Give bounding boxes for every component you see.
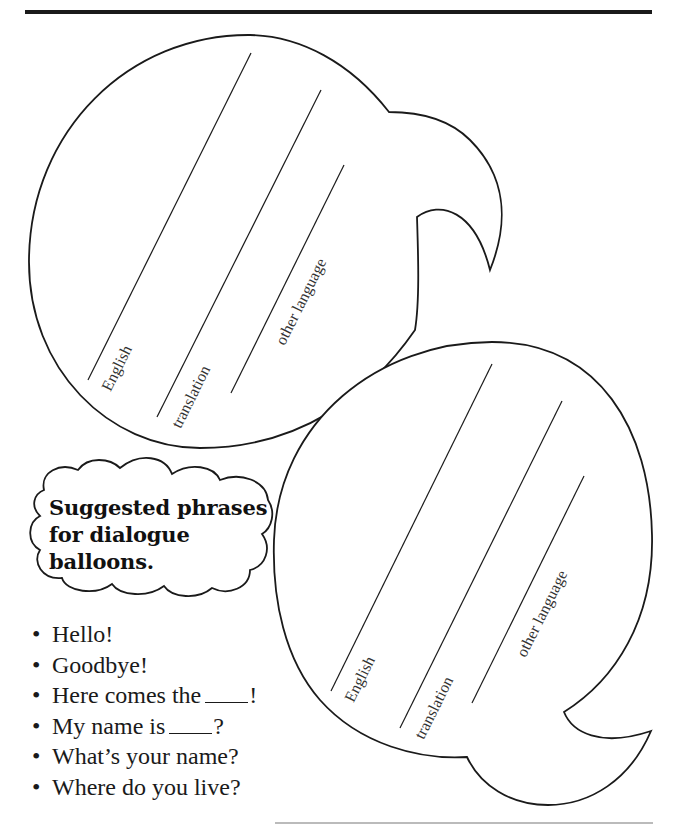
phrase-item: •What’s your name?	[30, 741, 257, 772]
phrase-text: Where do you live?	[52, 774, 241, 800]
fill-in-blank	[205, 684, 248, 703]
phrase-list: •Hello! •Goodbye! •Here comes the! •My n…	[30, 619, 257, 802]
footer-rule	[275, 822, 653, 824]
bullet-icon: •	[32, 772, 40, 803]
cloud-heading: Suggested phrases for dialogue balloons.	[49, 494, 274, 575]
bullet-icon: •	[32, 741, 40, 772]
bullet-icon: •	[32, 711, 40, 742]
phrase-item: •Hello!	[30, 619, 257, 650]
bullet-icon: •	[32, 619, 40, 650]
phrase-punctuation: !	[249, 682, 257, 708]
phrase-punctuation: ?	[213, 713, 224, 739]
phrase-item: •Here comes the!	[30, 680, 257, 711]
bullet-icon: •	[32, 650, 40, 681]
cloud-heading-line: Suggested phrases	[49, 494, 274, 521]
phrase-item: •Where do you live?	[30, 772, 257, 803]
cloud-heading-line: balloons.	[49, 548, 274, 575]
cloud-heading-line: for dialogue	[49, 521, 274, 548]
phrase-text: Hello!	[52, 621, 113, 647]
speech-balloon-bottom	[274, 342, 652, 805]
phrase-text: Goodbye!	[52, 652, 148, 678]
phrase-item: •My name is?	[30, 711, 257, 742]
phrase-text: My name is	[52, 713, 165, 739]
bullet-icon: •	[32, 680, 40, 711]
fill-in-blank	[169, 715, 212, 734]
phrase-text: What’s your name?	[52, 743, 239, 769]
phrase-text: Here comes the	[52, 682, 201, 708]
phrase-item: •Goodbye!	[30, 650, 257, 681]
